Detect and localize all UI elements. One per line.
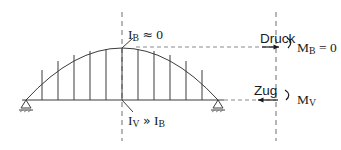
arch-bridge-diagram: IB ≈ 0 IV » IB Druck Zug MB = 0 MV (0, 0, 341, 150)
arrow-head-zug (258, 98, 264, 103)
label-force-zug: Zug (254, 84, 277, 98)
moment-top-subscript: B (309, 45, 316, 56)
leader-line-bottom (122, 100, 133, 112)
stiffness-top-value: 0 (156, 27, 163, 42)
stiffness-top-operator: ≈ (143, 27, 153, 42)
hanger-group (42, 48, 202, 100)
moment-curl-bottom-icon (285, 90, 289, 100)
moment-bottom-symbol: M (297, 92, 309, 107)
support-left (19, 100, 33, 112)
label-stiffness-bottom: IV » IB (128, 114, 165, 129)
label-force-druck: Druck (260, 32, 295, 46)
diagram-canvas (0, 0, 341, 150)
support-triangle-left (21, 100, 31, 108)
moment-bottom-subscript: V (309, 97, 316, 108)
moment-top-equals: = 0 (319, 40, 337, 55)
moment-top-symbol: M (297, 40, 309, 55)
stiffness-bottom-operator: » (143, 113, 151, 128)
stiffness-bottom-subscript-1: V (133, 118, 140, 129)
support-triangle-right (213, 100, 223, 108)
label-moment-top: MB = 0 (297, 41, 337, 56)
stiffness-top-subscript: B (133, 32, 140, 43)
support-right (211, 100, 225, 112)
label-stiffness-top: IB ≈ 0 (128, 28, 163, 43)
stiffness-bottom-subscript-2: B (159, 118, 166, 129)
label-moment-bottom: MV (297, 93, 316, 108)
force-arrow-zug (258, 98, 278, 103)
